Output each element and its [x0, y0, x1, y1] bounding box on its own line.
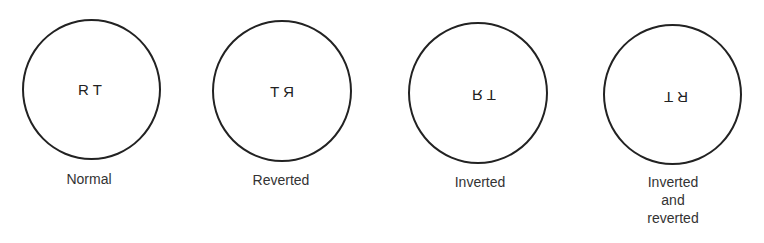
- label-normal: Normal: [29, 170, 149, 188]
- label-inverted-and-reverted-line1: Inverted: [613, 173, 733, 191]
- label-inverted-and-reverted-line2: and: [613, 191, 733, 209]
- letters-normal: R T: [78, 82, 102, 97]
- label-inverted: Inverted: [420, 173, 540, 191]
- letters-inverted-and-reverted: R T: [664, 90, 688, 105]
- label-inverted-and-reverted-line3: reverted: [613, 209, 733, 227]
- letters-inverted: R T: [472, 88, 496, 103]
- letters-reverted: R T: [270, 84, 294, 99]
- label-reverted: Reverted: [221, 171, 341, 189]
